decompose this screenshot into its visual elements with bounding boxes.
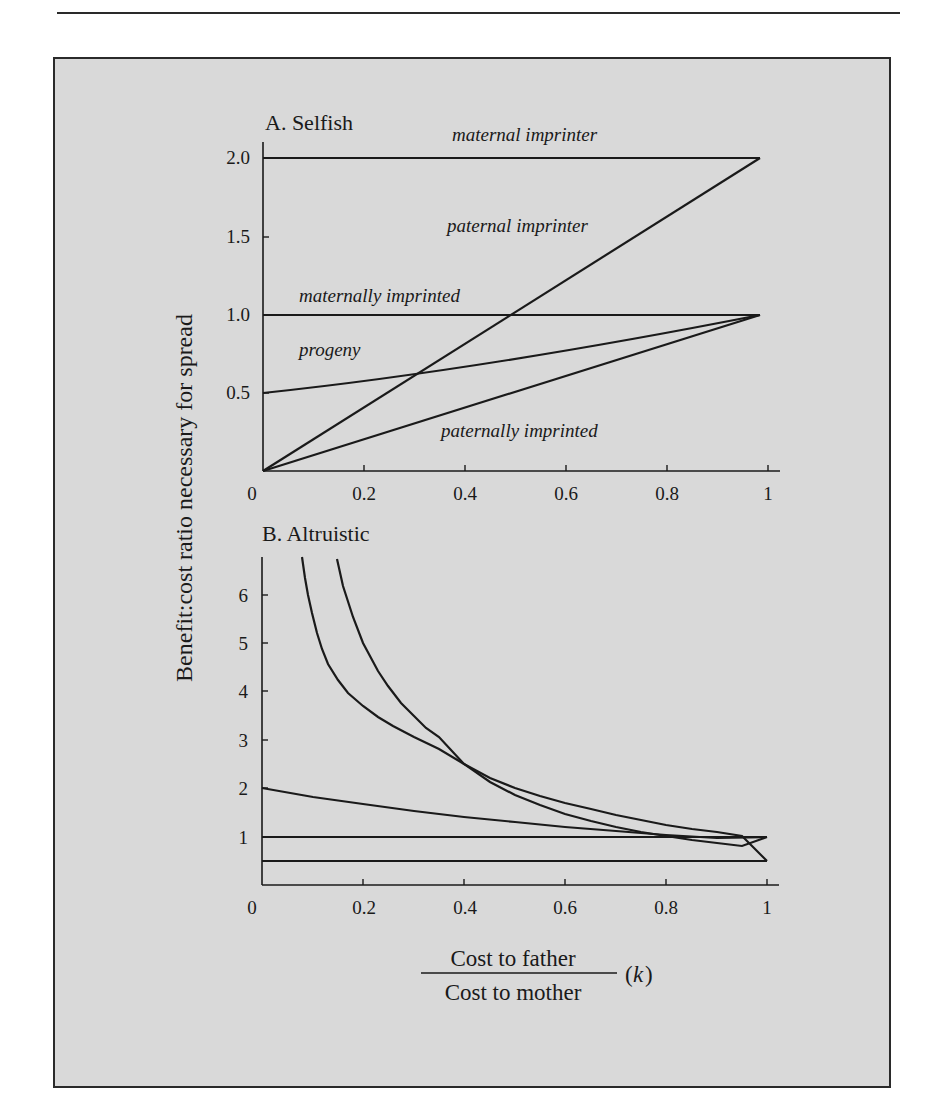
panel-b-y-ticks (262, 595, 268, 837)
panel-b-y-tick-label: 6 (239, 585, 249, 606)
x-axis-symbol-open: ( (625, 962, 633, 987)
x-axis-title: Cost to father Cost to mother ( k ) (421, 946, 653, 1005)
panel-b-x-tick-label: 0 (247, 897, 257, 918)
label-maternal-imprinter: maternal imprinter (452, 124, 598, 145)
panel-b-y-tick-label: 2 (239, 778, 249, 799)
panel-b-y-tick-label: 5 (239, 633, 249, 654)
panel-a-y-ticks (263, 158, 269, 393)
panel-b-x-tick-label: 0.8 (654, 897, 678, 918)
label-maternally-imprinted: maternally imprinted (299, 285, 460, 306)
panel-b-x-ticks (363, 879, 767, 885)
figure-chart: Benefit:cost ratio necessary for spread … (0, 0, 943, 1110)
panel-a-x-ticks (364, 465, 768, 471)
panel-a-y-tick-label: 2.0 (226, 147, 250, 168)
panel-a-x-tick-label: 0.8 (655, 483, 679, 504)
series-curve-inverse-2k (302, 557, 767, 861)
panel-b-title: B. Altruistic (262, 521, 370, 546)
panel-a-title: A. Selfish (265, 110, 353, 135)
panel-a-x-tick-label: 0.4 (453, 483, 477, 504)
panel-b-x-tick-label: 1 (762, 897, 772, 918)
x-axis-symbol-close: ) (645, 962, 653, 987)
x-axis-symbol-k: k (633, 962, 644, 987)
panel-a-y-tick-label: 1.5 (226, 226, 250, 247)
label-paternal-imprinter: paternal imprinter (445, 215, 589, 236)
panel-b-y-tick-label: 4 (239, 681, 249, 702)
y-axis-title: Benefit:cost ratio necessary for spread (171, 314, 197, 682)
panel-a-y-tick-label: 1.0 (226, 304, 250, 325)
panel-a-x-tick-label: 0.6 (554, 483, 578, 504)
series-curve-inverse-k (337, 559, 767, 846)
panel-a: A. Selfish 0.5 1.0 1.5 2.0 0 0.2 0. (226, 110, 780, 504)
panel-b-y-tick-label: 1 (239, 827, 249, 848)
x-axis-title-denominator: Cost to mother (445, 980, 582, 1005)
panel-a-x-tick-label: 1 (763, 483, 773, 504)
panel-b: B. Altruistic 1 2 3 4 5 6 (239, 521, 780, 918)
label-progeny: progeny (297, 339, 361, 360)
panel-b-x-tick-label: 0.6 (553, 897, 577, 918)
x-axis-title-numerator: Cost to father (450, 946, 576, 971)
panel-b-x-tick-label: 0.4 (453, 897, 477, 918)
panel-a-x-tick-label: 0 (247, 483, 257, 504)
panel-a-x-tick-label: 0.2 (352, 483, 376, 504)
panel-a-y-tick-label: 0.5 (226, 382, 250, 403)
panel-b-x-tick-label: 0.2 (352, 897, 376, 918)
panel-b-y-tick-label: 3 (239, 730, 249, 751)
label-paternally-imprinted: paternally imprinted (439, 420, 598, 441)
